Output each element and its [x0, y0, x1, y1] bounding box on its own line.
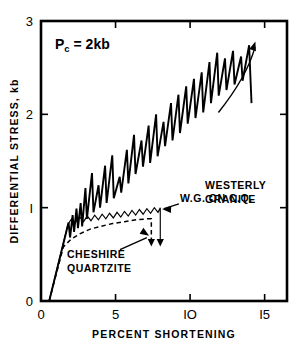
confining-pressure-annotation: Pc = 2kb	[55, 36, 110, 54]
y-axis-label: DIFFERENTIAL STRESS, kb	[8, 78, 20, 243]
confining-pressure-value: = 2kb	[70, 36, 110, 52]
y-tick-label: 2	[26, 107, 33, 122]
x-tick-label: 0	[37, 307, 44, 322]
stress-strain-chart: 05IOI50I23 PERCENT SHORTENING DIFFERENTI…	[0, 0, 302, 346]
x-axis-label: PERCENT SHORTENING	[92, 328, 236, 340]
wg-on-cq-label-text: W.G. ON C.Q.	[180, 192, 253, 204]
cheshire-quartzite-label-line1: CHESHIRE	[67, 248, 125, 260]
x-tick-label: IO	[183, 307, 197, 322]
cheshire-quartzite-label-line2: QUARTZITE	[67, 262, 132, 274]
confining-pressure-symbol: P	[55, 36, 64, 52]
y-tick-label: I	[29, 201, 33, 216]
westerly-granite-label-line1: WESTERLY	[205, 179, 266, 191]
x-tick-label: I5	[259, 307, 270, 322]
y-tick-label: 3	[26, 14, 33, 29]
chart-background	[0, 0, 302, 346]
y-tick-label: 0	[26, 294, 33, 309]
x-tick-label: 5	[112, 307, 119, 322]
